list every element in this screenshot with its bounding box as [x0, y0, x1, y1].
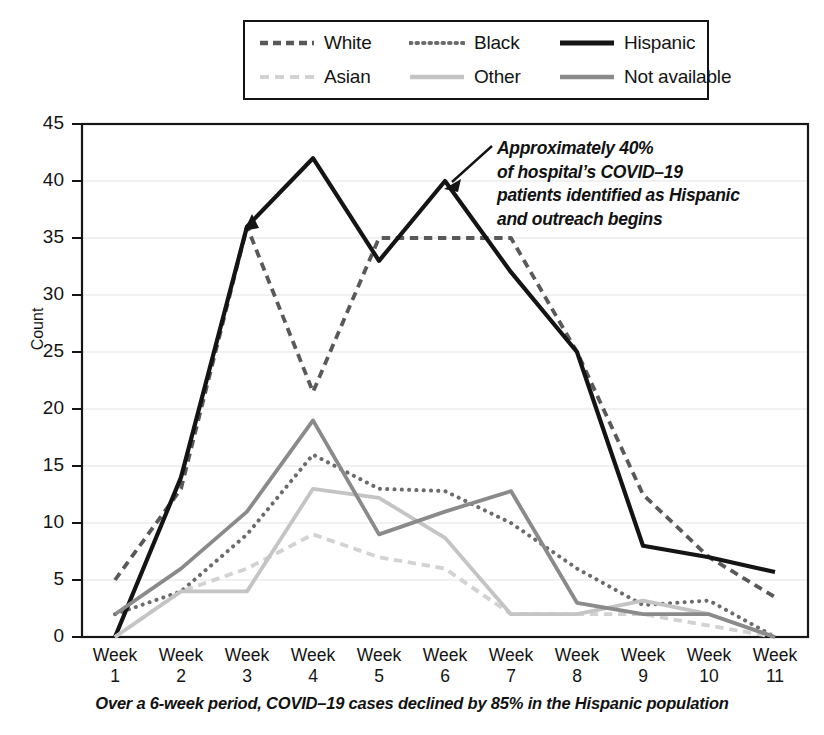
x-tick-number: 4 [308, 666, 318, 686]
y-tick-20: 20 [22, 397, 64, 419]
legend-label-other: Other [474, 66, 521, 88]
legend-item-hispanic[interactable]: Hispanic [559, 32, 731, 54]
legend: White Black Hispanic Asian [243, 20, 709, 100]
y-tick-35: 35 [22, 226, 64, 248]
x-tick-number: 1 [110, 666, 120, 686]
x-tick-word: Week [357, 645, 401, 665]
x-tick-week-2: Week2 [148, 645, 214, 687]
legend-label-asian: Asian [324, 66, 371, 88]
legend-item-not-available[interactable]: Not available [559, 66, 731, 88]
chart-figure: White Black Hispanic Asian [0, 0, 824, 735]
x-tick-word: Week [159, 645, 203, 665]
x-tick-week-10: Week10 [676, 645, 742, 687]
line-chart-canvas [0, 0, 824, 735]
x-tick-word: Week [489, 645, 533, 665]
y-tick-10: 10 [22, 511, 64, 533]
chart-caption: Over a 6-week period, COVID–19 cases dec… [0, 694, 824, 713]
legend-label-not-available: Not available [624, 66, 731, 88]
y-tick-marks [72, 124, 82, 637]
x-tick-word: Week [225, 645, 269, 665]
x-tick-number: 6 [440, 666, 450, 686]
y-tick-40: 40 [22, 169, 64, 191]
x-tick-week-11: Week11 [742, 645, 808, 687]
annotation-line-2: of hospital’s COVID–19 [497, 161, 747, 185]
x-tick-week-9: Week9 [610, 645, 676, 687]
legend-swatch-white [259, 37, 315, 49]
legend-item-black[interactable]: Black [409, 32, 559, 54]
x-tick-week-8: Week8 [544, 645, 610, 687]
x-tick-word: Week [423, 645, 467, 665]
series-line-black [115, 455, 775, 637]
y-tick-30: 30 [22, 283, 64, 305]
x-tick-number: 7 [506, 666, 516, 686]
legend-item-asian[interactable]: Asian [259, 66, 409, 88]
annotation-line-3: patients identified as Hispanic [497, 184, 747, 208]
y-tick-0: 0 [22, 625, 64, 647]
x-tick-number: 2 [176, 666, 186, 686]
chart-annotation: Approximately 40% of hospital’s COVID–19… [497, 137, 747, 231]
x-tick-number: 11 [766, 666, 784, 686]
legend-label-black: Black [474, 32, 519, 54]
x-tick-word: Week [555, 645, 599, 665]
x-tick-week-1: Week1 [82, 645, 148, 687]
legend-label-white: White [324, 32, 372, 54]
y-tick-5: 5 [22, 568, 64, 590]
gridlines [82, 181, 808, 580]
legend-swatch-asian [259, 71, 315, 83]
x-tick-week-4: Week4 [280, 645, 346, 687]
y-tick-25: 25 [22, 340, 64, 362]
legend-swatch-black [409, 37, 465, 49]
annotation-line-1: Approximately 40% [497, 137, 747, 161]
x-tick-word: Week [687, 645, 731, 665]
legend-item-white[interactable]: White [259, 32, 409, 54]
x-tick-word: Week [621, 645, 665, 665]
x-tick-word: Week [291, 645, 335, 665]
x-tick-week-5: Week5 [346, 645, 412, 687]
x-tick-word: Week [753, 645, 797, 665]
legend-label-hispanic: Hispanic [624, 32, 695, 54]
x-tick-number: 5 [374, 666, 384, 686]
x-tick-number: 8 [572, 666, 582, 686]
x-tick-word: Week [93, 645, 137, 665]
x-tick-week-6: Week6 [412, 645, 478, 687]
legend-swatch-other [409, 71, 465, 83]
x-tick-week-3: Week3 [214, 645, 280, 687]
series-line-not-available [115, 420, 775, 637]
annotation-line-4: and outreach begins [497, 208, 747, 232]
x-tick-number: 3 [242, 666, 252, 686]
x-tick-number: 9 [638, 666, 648, 686]
legend-swatch-hispanic [559, 37, 615, 49]
x-tick-number: 10 [699, 666, 718, 686]
x-tick-week-7: Week7 [478, 645, 544, 687]
legend-item-other[interactable]: Other [409, 66, 559, 88]
y-tick-15: 15 [22, 454, 64, 476]
legend-swatch-not-available [559, 71, 615, 83]
y-tick-45: 45 [22, 112, 64, 134]
